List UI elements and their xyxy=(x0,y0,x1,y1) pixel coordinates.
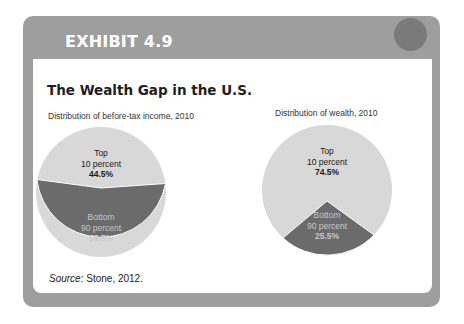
wealth-top-label: Top 10 percent 74.5% xyxy=(282,146,372,178)
chart-title: The Wealth Gap in the U.S. xyxy=(47,82,252,98)
decorative-circle-icon xyxy=(394,18,427,51)
source-note: Source: Stone, 2012. xyxy=(49,273,143,284)
wealth-bottom-label: Bottom 90 percent 25.5% xyxy=(282,210,372,242)
income-top-label: Top 10 percent 44.5% xyxy=(56,148,146,180)
income-chart-subtitle: Distribution of before-tax income, 2010 xyxy=(48,111,194,121)
exhibit-label: EXHIBIT 4.9 xyxy=(65,32,173,51)
wealth-chart-subtitle: Distribution of wealth, 2010 xyxy=(275,108,378,118)
income-bottom-label: Bottom 90 percent 55.5% xyxy=(56,212,146,244)
